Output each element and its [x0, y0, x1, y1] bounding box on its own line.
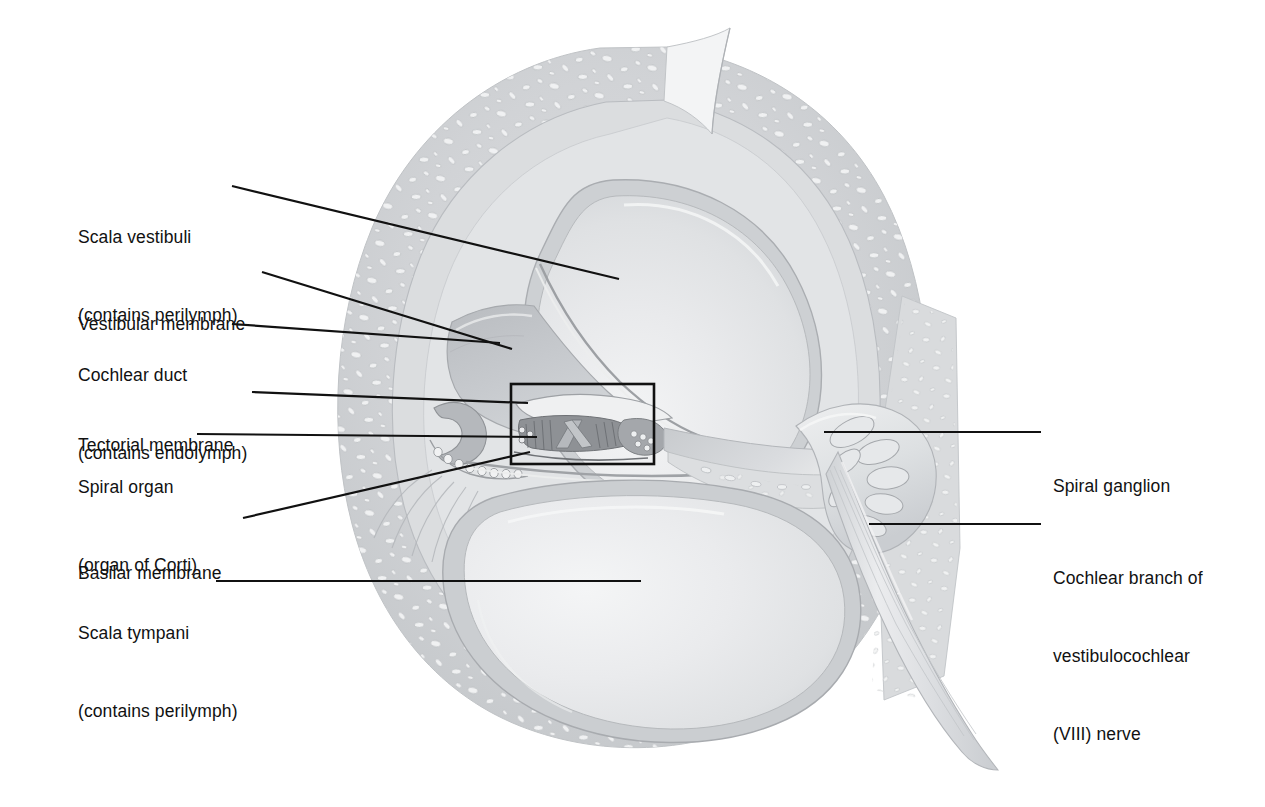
label-cochlear-branch-line1: Cochlear branch of	[1053, 565, 1203, 591]
label-scala-vestibuli-line1: Scala vestibuli	[78, 224, 238, 250]
figure-canvas: Scala vestibuli (contains perilymph) Ves…	[0, 0, 1265, 807]
label-spiral-ganglion-line1: Spiral ganglion	[1053, 473, 1170, 499]
label-scala-tympani: Scala tympani (contains perilymph)	[78, 568, 238, 776]
label-spiral-organ-line1: Spiral organ	[78, 474, 197, 500]
label-cochlear-branch-line2: vestibulocochlear	[1053, 643, 1203, 669]
label-scala-tympani-line2: (contains perilymph)	[78, 698, 238, 724]
label-cochlear-branch-nerve: Cochlear branch of vestibulocochlear (VI…	[1053, 513, 1203, 799]
label-cochlear-branch-line3: (VIII) nerve	[1053, 721, 1203, 747]
label-scala-tympani-line1: Scala tympani	[78, 620, 238, 646]
